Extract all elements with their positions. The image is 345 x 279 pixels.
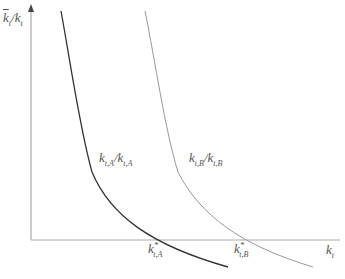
k-star-a-label: k*t,A xyxy=(148,240,162,259)
curve-b-label: kt,B/kt,B xyxy=(189,150,222,168)
y-axis-label: kt/kt xyxy=(3,10,23,28)
curve-a xyxy=(61,11,228,267)
k-star-b-label: k*t,B xyxy=(234,240,248,259)
diagram-canvas xyxy=(0,0,345,279)
curve-b xyxy=(145,11,313,267)
x-axis-label: kt xyxy=(326,242,334,260)
curve-a-label: kt,A/kt,A xyxy=(99,150,132,168)
y-axis-arrow-icon xyxy=(28,4,34,12)
